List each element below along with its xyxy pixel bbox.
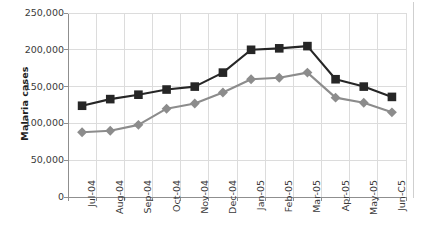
x-axis-tick-label: Oct-04 (171, 180, 182, 250)
x-axis-tick-label: Jan-05 (255, 180, 266, 250)
x-axis-tick-label: Jun-C5 (396, 180, 407, 250)
x-axis-tick-labels: Jul-04Aug-04Sep-04Oct-04Nov-04Dec-04Jan-… (0, 0, 421, 252)
x-axis-tick-label: Mar-05 (311, 180, 322, 250)
x-axis-tick-label: Dec-04 (227, 180, 238, 250)
x-axis-tick-label: Aug-04 (114, 180, 125, 250)
page-edge-line (413, 2, 414, 198)
malaria-cases-line-chart: Malaria cases 050,000100,000150,000200,0… (0, 0, 421, 252)
x-axis-tick-label: May-05 (368, 180, 379, 250)
x-axis-tick-label: Feb-05 (283, 180, 294, 250)
x-axis-tick-label: Jul-04 (86, 180, 97, 250)
x-axis-tick-label: Sep-04 (142, 180, 153, 250)
x-axis-tick-label: Nov-04 (199, 180, 210, 250)
x-axis-tick-label: Apr-05 (340, 180, 351, 250)
